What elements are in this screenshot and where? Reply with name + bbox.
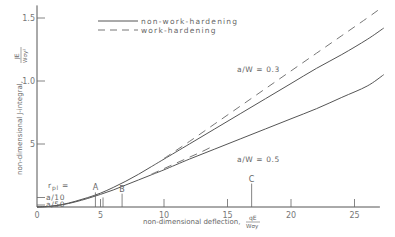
x-tick-label: 0	[34, 211, 39, 220]
x-axis-title-text: non-dimensional deflection,	[143, 218, 240, 226]
y-tick-label: 1.0	[22, 77, 35, 86]
x-tick-label: 5	[98, 211, 103, 220]
series-line-0	[37, 28, 384, 207]
legend-label-work-hardening: work-hardening	[141, 26, 217, 35]
marker-label-c: C	[249, 175, 255, 184]
series-line-3	[151, 145, 215, 174]
rpl-legend: r pl = a/10 a/50	[37, 181, 69, 209]
x-tick-label: 20	[286, 211, 296, 220]
series-line-2	[37, 75, 384, 207]
y-axis-title-frac-den: Wσy²	[22, 49, 29, 63]
y-tick-label: 5	[30, 140, 35, 149]
rpl-label-a50: a/50	[46, 200, 65, 209]
y-axis-title: non-dimensional J-integral, JE Wσy²	[13, 47, 29, 175]
y-axis-title-text: non-dimensional J-integral,	[16, 81, 24, 175]
axes	[37, 5, 380, 207]
x-tick-label: 25	[349, 211, 359, 220]
series-group	[37, 8, 384, 207]
legend-label-non-work-hardening: non-work-hardening	[141, 17, 238, 26]
chart: 051015202551.01.5 ABC non-work-hardening…	[0, 0, 395, 237]
rpl-subscript: pl	[52, 184, 59, 192]
marker-label-b: B	[119, 185, 125, 194]
legend: non-work-hardening work-hardening	[98, 17, 238, 35]
x-axis-title-frac-den: Wσy	[246, 223, 259, 230]
y-axis-title-frac-num: JE	[13, 53, 21, 60]
annotation-aw-0-3: a/W = 0.3	[237, 65, 280, 74]
x-axis-title-frac-num: qE	[249, 214, 257, 222]
marker-label-a: A	[93, 183, 99, 192]
markers-group: ABC	[93, 175, 255, 207]
y-tick-label: 1.5	[22, 14, 35, 23]
rpl-equals: =	[62, 181, 69, 190]
annotation-aw-0-5: a/W = 0.5	[237, 155, 280, 164]
ticks: 051015202551.01.5	[22, 14, 359, 220]
